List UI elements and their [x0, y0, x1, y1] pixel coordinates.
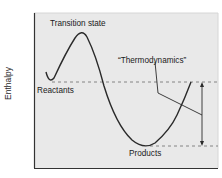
- transition-state-label: Transition state: [50, 20, 106, 28]
- energy-diagram: [0, 0, 222, 178]
- y-axis-label: Enthalpy: [4, 67, 13, 100]
- arrow-down-icon: [200, 141, 204, 146]
- thermodynamics-leader: [155, 62, 202, 115]
- reactants-label: Reactants: [37, 87, 74, 95]
- arrow-up-icon: [200, 82, 204, 87]
- thermodynamics-label: “Thermodynamics”: [118, 57, 186, 65]
- products-label: Products: [129, 150, 161, 158]
